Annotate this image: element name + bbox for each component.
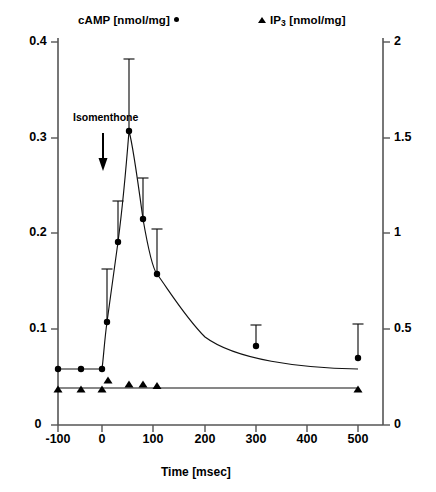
- plot-canvas: [0, 0, 436, 492]
- data-point: [77, 386, 86, 393]
- data-point: [104, 319, 110, 325]
- data-point: [253, 343, 259, 349]
- data-point: [54, 386, 63, 393]
- data-point: [104, 377, 113, 384]
- data-point: [78, 366, 84, 372]
- y-right-ticks: [383, 42, 390, 425]
- data-point: [355, 355, 361, 361]
- camp-error-bars: [102, 59, 364, 358]
- axes-group: [51, 38, 390, 432]
- ip3-data-points: [54, 377, 363, 393]
- data-point: [354, 386, 363, 393]
- data-point: [115, 239, 121, 245]
- data-point: [55, 366, 61, 372]
- data-point: [153, 382, 162, 389]
- data-point: [125, 381, 134, 388]
- data-point: [99, 366, 105, 372]
- data-point: [126, 128, 132, 134]
- data-point: [139, 381, 148, 388]
- data-point: [140, 216, 146, 222]
- data-point: [98, 386, 107, 393]
- data-point: [154, 271, 160, 277]
- x-ticks: [58, 425, 358, 432]
- chart-figure: cAMP [nmol/mg] IP3 [nmol/mg] Isomenthone…: [0, 0, 436, 492]
- isomenthone-arrow-icon: [99, 133, 108, 171]
